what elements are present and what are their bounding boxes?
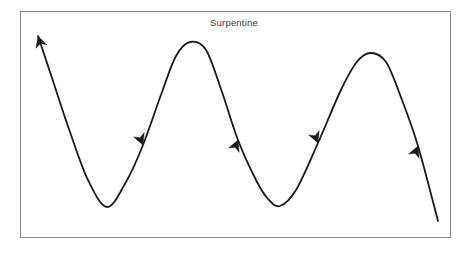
- serpentine-curve-canvas: [0, 0, 468, 253]
- serpentine-curve-path-group: [38, 36, 438, 221]
- serpentine-curve-path: [38, 36, 438, 221]
- figure-root: Surpentine: [0, 0, 468, 253]
- arrowhead-start-up-left: [33, 34, 47, 48]
- arrowhead-group: [33, 34, 424, 158]
- arrowhead-ascending-1: [229, 138, 244, 152]
